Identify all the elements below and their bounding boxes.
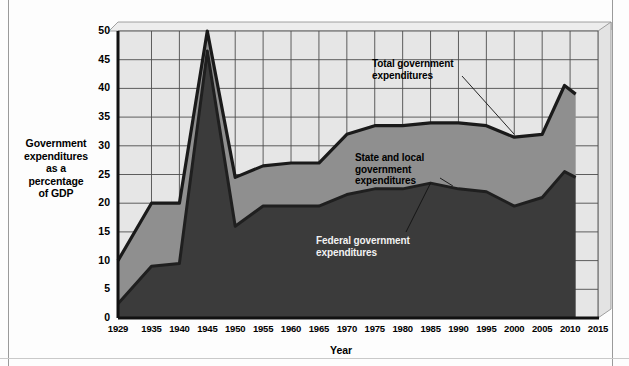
- y-axis-tick-label: 40: [88, 81, 110, 93]
- annotation-federal-line-2: expenditures: [316, 247, 410, 259]
- y-axis-tick-label: 15: [88, 225, 110, 237]
- y-axis-tick-label: 25: [88, 168, 110, 180]
- annotation-state-line-3: expenditures: [355, 175, 424, 187]
- x-axis-tick-label: 1929: [101, 323, 135, 334]
- annotation-federal-line-1: Federal government: [316, 235, 410, 247]
- annotation-total-government: Total government expenditures: [372, 58, 454, 81]
- x-axis-tick-label: 2015: [581, 323, 615, 334]
- y-axis-tick-label: 10: [88, 254, 110, 266]
- y-axis-tick-label: 50: [88, 24, 110, 36]
- annotation-federal-government: Federal government expenditures: [316, 235, 410, 258]
- annotation-state-and-local: State and local government expenditures: [355, 152, 424, 187]
- chart-page: Government expenditures as a percentage …: [0, 0, 629, 366]
- y-axis-tick-label: 45: [88, 53, 110, 65]
- plot-top-bevel: [109, 22, 611, 31]
- y-axis-tick-label: 0: [88, 311, 110, 323]
- annotation-state-line-1: State and local: [355, 152, 424, 164]
- y-axis-tick-label: 35: [88, 110, 110, 122]
- annotation-total-line-1: Total government: [372, 58, 454, 70]
- y-axis-tick-label: 20: [88, 196, 110, 208]
- x-axis-title: Year: [330, 344, 352, 356]
- annotation-state-line-2: government: [355, 164, 424, 176]
- y-axis-tick-label: 5: [88, 282, 110, 294]
- plot-right-bevel: [598, 22, 611, 318]
- y-axis-tick-label: 30: [88, 139, 110, 151]
- annotation-total-line-2: expenditures: [372, 70, 454, 82]
